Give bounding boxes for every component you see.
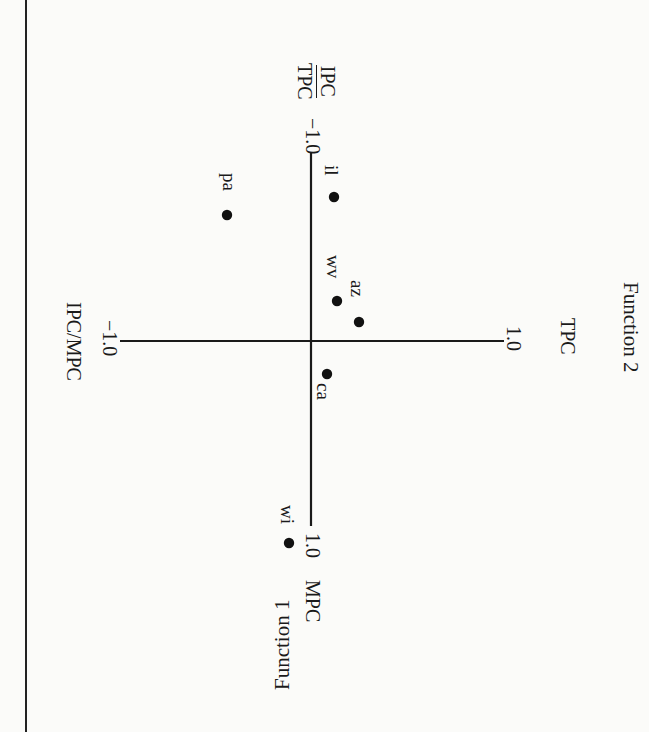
point-pa <box>222 210 232 220</box>
fraction-denominator: TPC <box>295 63 316 100</box>
fraction-numerator: IPC <box>316 65 338 98</box>
point-label-wv: wv <box>324 255 343 278</box>
function1-positive-tick: 1.0 <box>303 533 323 558</box>
point-label-pa: pa <box>220 173 239 191</box>
point-az <box>354 317 364 327</box>
point-wi <box>284 538 294 548</box>
function1-title: Function 1 <box>272 600 293 690</box>
plot-area <box>0 0 649 732</box>
point-label-il: il <box>322 165 341 176</box>
function2-positive-label: TPC <box>558 318 578 355</box>
function2-negative-label: IPC/MPC <box>64 302 84 381</box>
function2-title: Function 2 <box>620 282 641 372</box>
function1-positive-label: MPC <box>303 580 323 622</box>
point-label-wi: wi <box>278 505 297 524</box>
function2-negative-tick: −1.0 <box>100 320 120 356</box>
function1-negative-label: IPC TPC <box>295 63 338 100</box>
function1-negative-tick: −1.0 <box>303 118 323 154</box>
point-label-az: az <box>348 280 367 297</box>
point-ca <box>322 369 332 379</box>
point-il <box>329 192 339 202</box>
point-wv <box>332 296 342 306</box>
point-label-ca: ca <box>314 383 333 400</box>
ipc-over-tpc-fraction: IPC TPC <box>295 63 338 100</box>
function2-positive-tick: 1.0 <box>504 326 524 351</box>
